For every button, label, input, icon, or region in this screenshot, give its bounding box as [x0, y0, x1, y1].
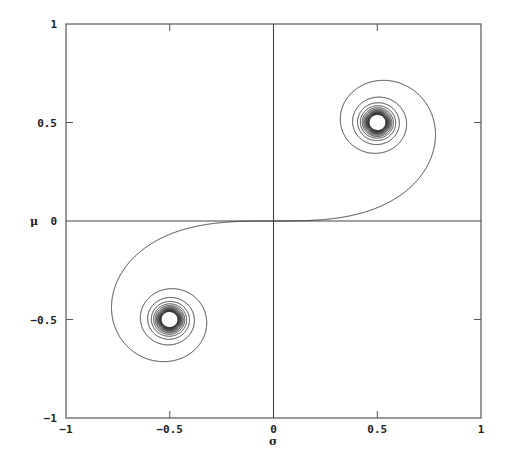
y-tick-label: −0.5: [31, 314, 58, 327]
euler-spiral-chart: −1−0.500.51−1−0.500.51 σ μ: [0, 0, 509, 469]
x-axis-title: σ: [269, 435, 277, 448]
y-tick-label: 0: [50, 215, 57, 228]
x-tick-label: 0.5: [367, 423, 387, 436]
tick-labels: −1−0.500.51−1−0.500.51: [31, 18, 485, 436]
x-tick-label: −0.5: [157, 423, 184, 436]
y-tick-label: 1: [50, 18, 57, 31]
x-tick-label: −1: [59, 423, 73, 436]
y-tick-label: −1: [44, 412, 58, 425]
y-tick-label: 0.5: [37, 117, 57, 130]
x-tick-label: 1: [478, 423, 485, 436]
y-axis-title: μ: [30, 215, 38, 228]
